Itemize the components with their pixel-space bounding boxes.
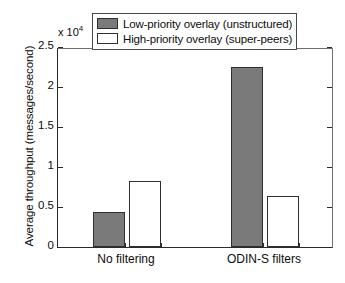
y-tick-label: 1: [48, 159, 54, 171]
legend-swatch-high-priority: [97, 33, 118, 44]
y-tick-mark: [58, 167, 63, 168]
legend-swatch-low-priority: [97, 18, 118, 29]
y-tick-mark-right: [327, 207, 332, 208]
y-tick-label: 0.5: [38, 199, 54, 211]
y-tick-mark: [58, 207, 63, 208]
x-tick-mark: [299, 243, 300, 248]
bar-low-priority: [93, 212, 125, 247]
y-tick-label: 2.5: [38, 39, 54, 51]
y-tick-mark: [58, 247, 63, 248]
y-tick-mark: [58, 47, 63, 48]
legend-label: Low-priority overlay (unstructured): [123, 18, 292, 30]
legend-item: High-priority overlay (super-peers): [97, 31, 292, 46]
bar-low-priority: [231, 67, 263, 247]
y-tick-mark-right: [327, 247, 332, 248]
y-tick-label: 1.5: [38, 119, 54, 131]
x-tick-mark: [125, 243, 126, 248]
y-axis-multiplier-exponent: 4: [79, 24, 83, 33]
y-tick-mark-right: [327, 167, 332, 168]
y-axis-label: Average throughput (messages/second): [23, 31, 35, 261]
y-axis-multiplier: x 104: [58, 24, 83, 38]
y-axis-multiplier-base: x 10: [58, 26, 79, 38]
x-tick-label: No filtering: [97, 252, 154, 266]
y-tick-mark-right: [327, 127, 332, 128]
bar-high-priority: [129, 181, 161, 247]
x-tick-mark: [263, 243, 264, 248]
y-tick-label: 0: [48, 239, 54, 251]
chart-legend: Low-priority overlay (unstructured)High-…: [92, 13, 297, 50]
y-tick-mark: [58, 127, 63, 128]
x-tick-label: ODIN-S filters: [227, 252, 301, 266]
y-tick-mark-right: [327, 87, 332, 88]
x-tick-mark: [161, 243, 162, 248]
bar-high-priority: [267, 196, 299, 247]
plot-area: 00.511.522.5: [57, 48, 333, 248]
y-tick-label: 2: [48, 79, 54, 91]
legend-label: High-priority overlay (super-peers): [123, 33, 292, 45]
legend-item: Low-priority overlay (unstructured): [97, 16, 292, 31]
chart-figure: Average throughput (messages/second) x 1…: [0, 0, 345, 283]
y-tick-mark: [58, 87, 63, 88]
y-tick-mark-right: [327, 47, 332, 48]
